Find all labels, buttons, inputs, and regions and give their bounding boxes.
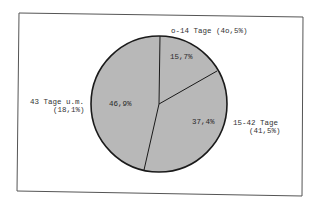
slice-1-outer-label-line1: 15-42 Tage [233,119,278,127]
slice-2-outer-label-line2: (18,1%) [53,106,85,114]
slice-0-outer-label: o-14 Tage (4o,5%) [171,27,248,35]
slice-2-inner-label: 46,9% [109,100,132,108]
slice-0-inner-label: 15,7% [170,53,193,61]
slice-1-outer-label-line2: (41,5%) [249,127,281,135]
slice-2-outer-label-line1: 43 Tage u.m. [30,98,84,106]
pie-chart: 15,7% 37,4% 46,9% o-14 Tage (4o,5%) 15-4… [0,0,319,206]
slice-1-inner-label: 37,4% [192,118,215,126]
